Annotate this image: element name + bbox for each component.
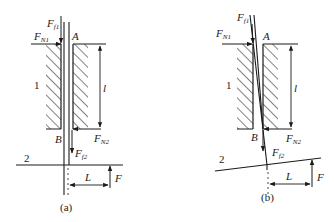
fn2-label: FN2	[285, 132, 301, 146]
guide-rod-friction-diagram: Ff1 FN1 A 1 l FN2 B Ff2 2 F L (a)	[0, 0, 334, 222]
guide-block-right	[73, 44, 88, 129]
caption-a: (a)	[60, 201, 73, 214]
guide-block-left	[46, 44, 61, 129]
L-label: L	[285, 170, 292, 182]
part-2-label: 2	[219, 153, 225, 165]
point-b-label: B	[251, 131, 258, 143]
guide-block-right	[263, 44, 278, 129]
ff1-label: Ff1	[236, 11, 249, 25]
part-1-label: 1	[226, 79, 232, 91]
l-label: l	[294, 82, 297, 94]
part-1-label: 1	[34, 79, 40, 91]
panel-a: Ff1 FN1 A 1 l FN2 B Ff2 2 F L (a)	[16, 16, 123, 214]
guide-block-left	[237, 44, 253, 129]
force-f-label: F	[114, 172, 122, 184]
ff1-arrow	[252, 24, 253, 43]
point-a-label: A	[262, 30, 270, 42]
ff1-label: Ff1	[46, 17, 59, 31]
part-2-label: 2	[24, 152, 30, 164]
point-b-label: B	[55, 133, 62, 145]
caption-b: (b)	[261, 191, 274, 204]
point-a-label: A	[71, 30, 79, 42]
lever-2	[215, 158, 321, 171]
force-f-label: F	[316, 171, 324, 183]
ff2-label: Ff2	[271, 146, 285, 160]
fn2-label: FN2	[93, 132, 109, 146]
l-label: l	[103, 82, 106, 94]
panel-b: Ff1 FN1 A 1 l FN2 B Ff2 2 F L (b)	[215, 11, 324, 204]
fn1-label: FN1	[215, 27, 231, 41]
L-label: L	[84, 171, 91, 183]
fn1-label: FN1	[33, 30, 49, 44]
ff2-label: Ff2	[74, 147, 88, 161]
